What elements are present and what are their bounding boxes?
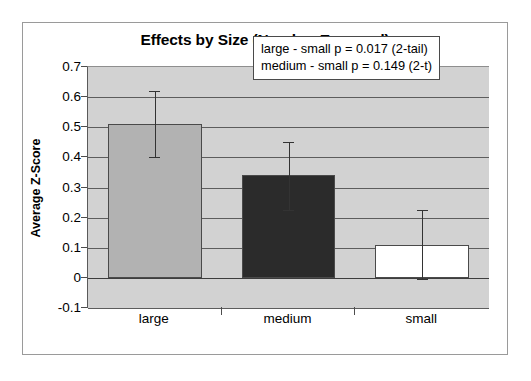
gridline (88, 97, 489, 98)
y-axis-tick-marks (23, 66, 87, 307)
error-bar-cap-upper-medium (283, 142, 294, 143)
plot-area (87, 66, 489, 308)
x-axis-labels: largemediumsmall (87, 308, 488, 332)
x-axis-label-medium: medium (221, 308, 355, 332)
error-bar-medium (289, 142, 290, 210)
error-bar-cap-lower-medium (283, 210, 294, 211)
annotation-line-1: large - small p = 0.017 (2-tail) (261, 40, 432, 57)
x-axis-label-small: small (354, 308, 488, 332)
gridline (88, 278, 489, 279)
x-axis-label-large: large (87, 308, 221, 332)
error-bar-large (155, 91, 156, 157)
error-bar-cap-lower-small (417, 279, 428, 280)
chart-frame: Effects by Size (Number Engaged) Average… (22, 22, 508, 355)
x-axis-tick-mark (221, 307, 222, 315)
x-axis-tick-mark (354, 307, 355, 315)
error-bar-cap-lower-large (149, 157, 160, 158)
annotation-box: large - small p = 0.017 (2-tail) medium … (253, 36, 440, 80)
error-bar-cap-upper-large (149, 91, 160, 92)
error-bar-small (422, 210, 423, 279)
error-bar-cap-upper-small (417, 210, 428, 211)
annotation-line-2: medium - small p = 0.149 (2-t) (261, 57, 432, 74)
